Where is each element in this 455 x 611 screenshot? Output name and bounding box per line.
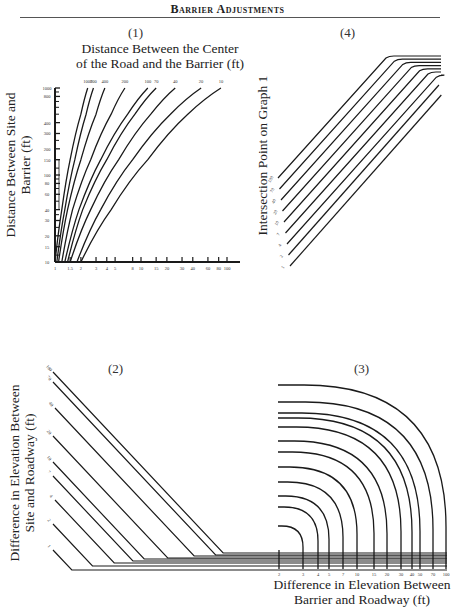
graph-2-line-label: 70 — [46, 375, 53, 382]
graph-2-line-label: 1 — [47, 544, 52, 549]
graph-3-curve-15 — [278, 452, 374, 569]
nomograph-charts: 10152030406080100150200300400800100011.5… — [0, 0, 455, 611]
graph-4-line-label: 20 — [272, 208, 279, 215]
graph-4-line-label: 2 — [278, 254, 283, 258]
graph-1-y-tick-label: 800 — [44, 94, 52, 99]
graph-2-line-label: 4 — [49, 494, 55, 500]
graph-2-line-label: 20 — [46, 429, 53, 436]
graph-3-x-tick-label: 70 — [431, 572, 436, 577]
graph-4-line-label: 40 — [270, 197, 277, 204]
graph-1-x-tick-label: 1.5 — [67, 266, 73, 271]
graph-4-line-label: 4 — [277, 242, 283, 247]
graph-1-x-tick-label: 40 — [191, 266, 196, 271]
graph-3-x-tick-label: 4 — [317, 572, 320, 577]
graph-3-curve-4 — [278, 507, 318, 569]
graph-3-x-tick-label: 3 — [302, 572, 305, 577]
graph-4-line-label: 10 — [273, 219, 280, 226]
graph-4-line-label: 100 — [267, 174, 275, 183]
graph-1-x-tick-label: 2 — [80, 266, 82, 271]
graph-4-line-label: 70 — [269, 186, 276, 193]
graph-1-y-tick-label: 200 — [44, 147, 52, 152]
graph-2-line-10 — [53, 462, 447, 559]
graph-1-x-tick-label: 4 — [106, 266, 109, 271]
graph-1-y-tick-label: 15 — [45, 245, 50, 250]
graph-3-x-tick-label: 7 — [342, 572, 345, 577]
graph-3-x-tick-label: 15 — [372, 572, 377, 577]
graph-4-line-4 — [287, 75, 444, 244]
graph-1-y-tick-label: 60 — [45, 192, 50, 197]
graph-2-line-100 — [53, 372, 447, 553]
graph-2-line-7 — [53, 476, 447, 561]
graph-2-line-40 — [55, 408, 447, 556]
graph-4-line-2 — [289, 85, 439, 255]
graph-1-curve-label: 70 — [154, 79, 159, 84]
graph-1-curve-label: 10 — [219, 79, 224, 84]
graph-1-x-tick-label: 100 — [224, 266, 232, 271]
graph-1-y-tick-label: 400 — [44, 121, 52, 126]
graph-3-x-tick-label: 5 — [328, 572, 331, 577]
graph-2-line-label: 7 — [47, 470, 53, 476]
graph-1-x-tick-label: 15 — [154, 266, 159, 271]
graph-1-x-tick-label: 10 — [139, 266, 144, 271]
graph-3-x-tick-label: 40 — [410, 572, 415, 577]
graph-1-y-tick-label: 80 — [45, 181, 50, 186]
graph-3-x-tick-label: 10 — [355, 572, 360, 577]
graph-4-line-20 — [283, 66, 442, 211]
graph-1-y-tick-label: 300 — [44, 131, 52, 136]
graph-3-x-tick-label: 20 — [385, 572, 390, 577]
graph-1-curve-label: 100 — [144, 79, 152, 84]
graph-1-x-tick-label: 8 — [132, 266, 135, 271]
graph-1-curve-label: 700 — [90, 79, 98, 84]
graph-1-curve-label: 20 — [199, 79, 204, 84]
graph-1-curve-label: 40 — [173, 79, 178, 84]
graph-4-line-1 — [290, 95, 441, 266]
graph-3-x-tick-label: 100 — [443, 572, 451, 577]
graph-1-curve-label: 200 — [122, 79, 130, 84]
graph-2-line-label: 40 — [48, 401, 55, 408]
graph-2-line-2 — [53, 524, 447, 566]
graph-1-y-tick-label: 150 — [44, 158, 52, 163]
graph-3-x-tick-label: 50 — [418, 572, 423, 577]
graph-1-x-tick-label: 80 — [216, 266, 221, 271]
graph-1-y-tick-label: 30 — [45, 218, 50, 223]
graph-1-curve-label: 400 — [101, 79, 109, 84]
graph-2-line-label: 10 — [46, 455, 53, 462]
graph-1-y-tick-label: 100 — [44, 173, 52, 178]
graph-1-y-tick-label: 40 — [45, 208, 50, 213]
graph-3-x-tick-label: 30 — [399, 572, 404, 577]
graph-2-line-label: 100 — [45, 364, 54, 373]
graph-4-line-label: 7 — [275, 231, 281, 236]
graph-1-y-tick-label: 20 — [45, 234, 50, 239]
graph-1-y-tick-label: 10 — [45, 260, 50, 265]
graph-4-line-40 — [281, 62, 441, 200]
graph-1-x-tick-label: 5 — [114, 266, 117, 271]
graph-1-x-tick-label: 60 — [206, 266, 211, 271]
graph-4-line-label: 1 — [280, 265, 285, 269]
graph-2-line-label: 2 — [47, 518, 52, 523]
graph-1-x-tick-label: 30 — [180, 266, 185, 271]
graph-1-y-tick-label: 1000 — [43, 86, 53, 91]
graph-3-x-tick-label: 2 — [278, 572, 280, 577]
graph-1-x-tick-label: 1 — [54, 266, 56, 271]
graph-1-x-tick-label: 20 — [165, 266, 170, 271]
graph-1-x-tick-label: 3 — [95, 266, 98, 271]
